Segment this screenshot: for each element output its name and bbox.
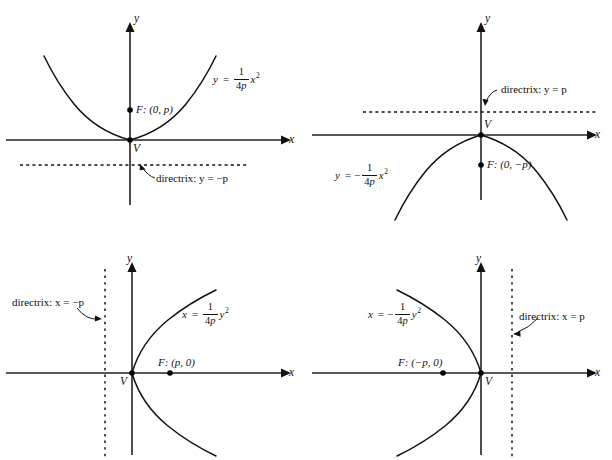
panel-down-graphic (306, 0, 612, 230)
equation-lead: x (182, 308, 187, 321)
focus-dot (167, 370, 173, 376)
equation-denominator-var: p (370, 176, 375, 187)
directrix-label: directrix: x = p (519, 310, 585, 323)
equation-fraction: 1 4p (362, 163, 377, 187)
focus-label: F: (−p, 0) (398, 356, 442, 369)
directrix-leader-arrowhead (95, 316, 102, 322)
equation-variable-text: y (220, 308, 225, 320)
equation-denominator-var: p (403, 315, 408, 326)
vertex-dot (129, 370, 135, 376)
focus-dot (440, 370, 446, 376)
equation-relation: = (345, 169, 351, 182)
directrix-label: directrix: y = −p (156, 172, 228, 185)
y-axis-label: y (485, 12, 490, 25)
x-axis-label: x (595, 366, 600, 379)
equation-variable-text: y (412, 308, 417, 320)
equation-sign: − (387, 308, 393, 321)
vertex-label: V (133, 142, 140, 155)
directrix-label: directrix: y = p (501, 83, 567, 96)
focus-label: F: (p, 0) (158, 356, 195, 369)
panel-left-graphic (306, 230, 612, 460)
equation-variable-text: x (379, 169, 384, 181)
equation-relation: = (378, 308, 384, 321)
y-axis-label: y (127, 252, 132, 265)
equation-label: x = − 1 4p y2 (368, 302, 421, 326)
y-axis-label: y (476, 252, 481, 265)
panel-parabola-right: x y V F: (p, 0) directrix: x = −p x = 1 … (0, 230, 306, 460)
equation-fraction: 1 4p (395, 302, 410, 326)
equation-label: y = − 1 4p x2 (335, 163, 388, 187)
equation-exponent: 2 (256, 71, 260, 80)
directrix-label: directrix: x = −p (12, 296, 84, 309)
directrix-leader-arrowhead (513, 331, 521, 337)
equation-denominator-var: p (210, 315, 215, 326)
equation-denominator: 4p (362, 175, 377, 188)
focus-dot (478, 162, 484, 168)
panel-right-graphic (0, 230, 306, 460)
equation-denominator: 4p (395, 314, 410, 327)
vertex-dot (478, 370, 484, 376)
equation-variable: x2 (379, 168, 388, 181)
panel-parabola-left: x y V F: (−p, 0) directrix: x = p x = − … (306, 230, 612, 460)
x-axis-label: x (289, 133, 294, 146)
equation-lead: y (335, 169, 340, 182)
focus-label: F: (0, −p) (487, 158, 531, 171)
equation-lead: x (368, 308, 373, 321)
y-axis-label: y (134, 12, 139, 25)
x-axis-label: x (289, 366, 294, 379)
parabola-figure: x y V F: (0, p) directrix: y = −p y = 1 … (0, 0, 612, 460)
equation-label: y = 1 4p x2 (213, 67, 260, 91)
equation-denominator: 4p (234, 79, 249, 92)
equation-fraction: 1 4p (234, 67, 249, 91)
equation-relation: = (192, 308, 198, 321)
focus-dot (127, 107, 133, 113)
panel-parabola-up: x y V F: (0, p) directrix: y = −p y = 1 … (0, 0, 306, 230)
equation-variable: x2 (251, 72, 260, 85)
equation-relation: = (223, 73, 229, 86)
x-axis-label: x (595, 128, 600, 141)
equation-exponent: 2 (417, 306, 421, 315)
equation-variable: y2 (412, 307, 421, 320)
vertex-label: V (485, 375, 492, 388)
equation-variable: y2 (220, 307, 229, 320)
focus-label: F: (0, p) (136, 103, 173, 116)
equation-variable-text: x (251, 73, 256, 85)
equation-lead: y (213, 73, 218, 86)
equation-numerator: 1 (398, 302, 407, 314)
equation-denominator-var: p (241, 80, 246, 91)
vertex-label: V (120, 375, 127, 388)
vertex-dot (127, 137, 133, 143)
equation-denominator: 4p (203, 314, 218, 327)
vertex-label: V (484, 118, 491, 131)
panel-parabola-down: x y V F: (0, −p) directrix: y = p y = − … (306, 0, 612, 230)
equation-exponent: 2 (384, 167, 388, 176)
directrix-leader-arrowhead (483, 99, 489, 106)
equation-numerator: 1 (237, 67, 246, 79)
equation-numerator: 1 (365, 163, 374, 175)
equation-exponent: 2 (225, 306, 229, 315)
equation-label: x = 1 4p y2 (182, 302, 229, 326)
directrix-leader (77, 308, 98, 319)
equation-numerator: 1 (206, 302, 215, 314)
equation-fraction: 1 4p (203, 302, 218, 326)
equation-sign: − (354, 169, 360, 182)
vertex-dot (478, 132, 484, 138)
